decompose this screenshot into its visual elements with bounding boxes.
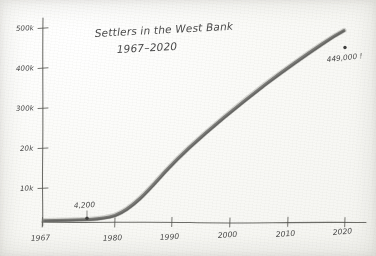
data-point-marker-4200 bbox=[85, 217, 88, 220]
y-tick-label-500k: 500k bbox=[16, 23, 35, 33]
x-tick-label-1990: 1990 bbox=[160, 232, 180, 242]
data-curve bbox=[44, 31, 344, 221]
y-tick-label-400k: 400k bbox=[16, 63, 35, 73]
chart-subtitle: 1967–2020 bbox=[116, 40, 177, 55]
y-tick-label-200k: 20k bbox=[20, 144, 34, 153]
y-tick-100k bbox=[38, 188, 48, 189]
x-tick-label-2000: 2000 bbox=[218, 230, 238, 240]
x-tick-label-1967: 1967 bbox=[31, 233, 51, 243]
x-tick-label-2010: 2010 bbox=[276, 229, 296, 239]
chart-sheet: 500k 400k 300k 20k 10k 1967 1980 1990 20… bbox=[0, 0, 376, 256]
y-tick-300k bbox=[38, 108, 48, 109]
x-tick-label-2020: 2020 bbox=[332, 226, 352, 237]
y-tick-500k bbox=[38, 28, 48, 29]
y-tick-400k bbox=[38, 68, 48, 69]
hand-drawn-line-chart: 500k 400k 300k 20k 10k 1967 1980 1990 20… bbox=[0, 0, 376, 256]
annotation-label-449000: 449,000 ! bbox=[326, 51, 363, 64]
annotation-label-4200: 4,200 bbox=[74, 200, 96, 210]
x-axis bbox=[42, 222, 366, 223]
y-tick-label-100k: 10k bbox=[20, 184, 34, 193]
chart-title: Settlers in the West Bank bbox=[94, 20, 234, 39]
data-point-marker-449000 bbox=[343, 46, 346, 49]
y-tick-label-300k: 300k bbox=[16, 103, 35, 113]
x-tick-label-1980: 1980 bbox=[103, 233, 123, 243]
y-tick-200k bbox=[38, 148, 48, 149]
y-axis bbox=[42, 18, 43, 226]
